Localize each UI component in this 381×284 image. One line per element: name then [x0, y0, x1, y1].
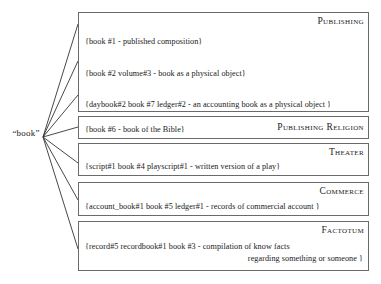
edge-to-sense-1-line-1 — [43, 24, 78, 137]
edge-to-sense-3 — [43, 137, 78, 163]
edge-to-sense-5 — [43, 137, 78, 249]
domain-label-publishing: Publishing — [317, 16, 364, 27]
synset-line: regarding something or someone } — [248, 253, 363, 264]
synset-line: {script#1 book #4 playscript#1 - written… — [85, 161, 280, 172]
synset-line: {account_book#1 book #5 ledger#1 - recor… — [85, 201, 320, 212]
domain-label-publishing-religion: Publishing Religion — [277, 122, 364, 133]
synset-line: {daybook#2 book #7 ledger#2 - an account… — [85, 99, 331, 110]
sense-box-theater[interactable]: Theater {script#1 book #4 playscript#1 -… — [78, 143, 369, 176]
edge-to-sense-4 — [43, 137, 78, 200]
sense-box-factotum[interactable]: Factotum {record#5 recordbook#1 book #3 … — [78, 221, 369, 271]
domain-label-theater: Theater — [329, 147, 364, 158]
lemma-label: “book” — [6, 128, 46, 138]
edge-to-sense-1-line-3 — [43, 95, 78, 137]
edge-to-sense-2 — [43, 127, 78, 137]
domain-label-factotum: Factotum — [321, 225, 364, 236]
sense-box-publishing[interactable]: Publishing {book #1 - published composit… — [78, 12, 369, 112]
synset-line: {record#5 recordbook#1 book #3 - compila… — [85, 241, 290, 252]
synset-diagram: “book” Publishing {book #1 - published c… — [0, 0, 381, 284]
synset-line: {book #2 volume#3 - book as a physical o… — [85, 68, 246, 79]
synset-line: {book #6 - book of the Bible} — [85, 124, 185, 135]
synset-line: {book #1 - published composition} — [85, 36, 202, 47]
sense-box-commerce[interactable]: Commerce {account_book#1 book #5 ledger#… — [78, 182, 369, 216]
edge-to-sense-1-line-2 — [43, 61, 78, 137]
sense-box-publishing-religion[interactable]: Publishing Religion {book #6 - book of t… — [78, 116, 369, 139]
domain-label-commerce: Commerce — [319, 186, 364, 197]
